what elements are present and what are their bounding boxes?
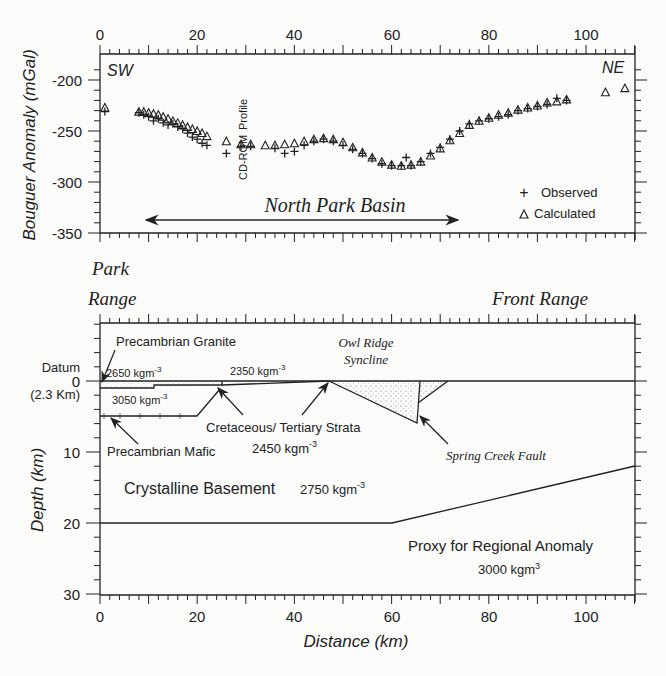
- by-tick-10: 10: [63, 444, 80, 461]
- legend: + Observed Calculated: [519, 184, 597, 221]
- owl-ridge-label: Owl Ridge: [338, 335, 393, 350]
- observed-point: [402, 154, 410, 162]
- datum-elevation: (2.3 Km): [30, 387, 80, 402]
- figure: 0 20 40 60 80 100 -200 -250 -300 -350 Bo…: [0, 0, 666, 676]
- by-tick-30: 30: [63, 586, 80, 603]
- bx-tick-100: 100: [573, 608, 598, 625]
- calculated-point: [601, 88, 609, 96]
- granite-body: [100, 381, 154, 388]
- cdrom-label: CD-ROM: [237, 135, 249, 180]
- legend-triangle-icon: [520, 210, 528, 218]
- y-tick-minus350: -350: [52, 225, 82, 242]
- observed-point: [329, 137, 337, 145]
- legend-observed: Observed: [541, 185, 597, 200]
- observed-point: [310, 137, 318, 145]
- observed-point: [475, 117, 483, 125]
- observed-point: [198, 139, 206, 147]
- bx-tick-20: 20: [189, 608, 206, 625]
- ne-label: NE: [602, 59, 625, 76]
- x-tick-0: 0: [96, 26, 104, 43]
- observed-point: [397, 162, 405, 170]
- x-tick-60: 60: [384, 26, 401, 43]
- bottom-plot: Park Range Front Range: [28, 258, 647, 651]
- observed-point: [349, 145, 357, 153]
- datum-label: Datum: [42, 360, 80, 375]
- bottom-x-tick-labels: 0 20 40 60 80 100: [96, 608, 599, 625]
- distance-axis-title: Distance (km): [304, 632, 409, 651]
- syncline-label: Syncline: [344, 352, 388, 367]
- observed-point: [543, 100, 551, 108]
- profile-label: Profile: [237, 99, 249, 130]
- observed-point: [378, 160, 386, 168]
- density-2750: 2750 kgm-3: [300, 480, 365, 497]
- observed-point: [504, 111, 512, 119]
- x-tick-80: 80: [481, 26, 498, 43]
- crystalline-basement-label: Crystalline Basement: [124, 480, 276, 497]
- observed-point: [222, 149, 230, 157]
- sw-label: SW: [107, 62, 135, 79]
- observed-point: [417, 158, 425, 166]
- cretaceous-label: Cretaceous/ Tertiary Strata: [206, 420, 361, 435]
- density-2450: 2450 kgm-3: [252, 439, 317, 456]
- observed-point: [495, 113, 503, 121]
- cretaceous-arrow-left: [218, 388, 243, 415]
- bottom-y-tick-labels: 0 10 20 30: [63, 373, 80, 603]
- cretaceous-arrow-right: [302, 383, 328, 415]
- observed-point: [203, 141, 211, 149]
- density-2650: 2650 kgm-3: [106, 365, 162, 379]
- proxy-label: Proxy for Regional Anomaly: [408, 537, 594, 554]
- y-tick-minus200: -200: [52, 72, 82, 89]
- mafic-arrow: [111, 418, 138, 444]
- y-tick-minus300: -300: [52, 174, 82, 191]
- calculated-point: [290, 139, 298, 147]
- fault-arrow: [420, 416, 448, 444]
- by-tick-20: 20: [63, 515, 80, 532]
- calculated-point: [621, 84, 629, 92]
- observed-point: [290, 147, 298, 155]
- top-data-points: [101, 84, 629, 170]
- top-plot: 0 20 40 60 80 100 -200 -250 -300 -350 Bo…: [20, 26, 647, 242]
- calculated-point: [261, 141, 269, 149]
- bx-tick-40: 40: [286, 608, 303, 625]
- calculated-point: [281, 140, 289, 148]
- bottom-top-x-ticks: [100, 314, 635, 323]
- spring-creek-fault-label: Spring Creek Fault: [446, 448, 546, 463]
- density-2350: 2350 kgm-3: [230, 363, 286, 377]
- observed-point: [553, 94, 561, 102]
- bottom-x-ticks: [100, 595, 635, 604]
- observed-point: [281, 149, 289, 157]
- park-label: Park: [91, 258, 130, 279]
- range-label: Range: [87, 288, 137, 309]
- mafic-label: Precambrian Mafic: [107, 444, 216, 459]
- bx-tick-80: 80: [481, 608, 498, 625]
- top-x-tick-labels: 0 20 40 60 80 100: [96, 26, 599, 43]
- x-tick-100: 100: [573, 26, 598, 43]
- x-tick-20: 20: [189, 26, 206, 43]
- y-tick-minus250: -250: [52, 123, 82, 140]
- depth-axis-title: Depth (km): [28, 448, 47, 532]
- density-3000: 3000 kgm3: [478, 561, 540, 577]
- calculated-point: [222, 137, 230, 145]
- legend-plus-icon: +: [519, 184, 528, 201]
- legend-calculated: Calculated: [534, 206, 595, 221]
- density-3050: 3050 kgm-3: [112, 392, 168, 406]
- bx-tick-0: 0: [96, 608, 104, 625]
- top-y-tick-labels: -200 -250 -300 -350: [52, 72, 82, 242]
- basin-label: North Park Basin: [263, 194, 405, 216]
- granite-label: Precambrian Granite: [116, 334, 236, 349]
- front-range-label: Front Range: [491, 288, 588, 309]
- bx-tick-60: 60: [384, 608, 401, 625]
- x-tick-40: 40: [286, 26, 303, 43]
- top-y-axis-title: Bouguer Anomaly (mGal): [20, 49, 39, 240]
